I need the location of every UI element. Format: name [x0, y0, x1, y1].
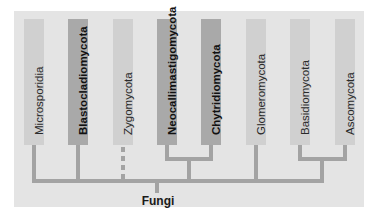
branch-zygomycota-dash [121, 156, 125, 161]
taxon-bar-neocallimastigomycota: Neocallimastigomycota [157, 19, 177, 145]
branch-blastocladiomycota [76, 145, 80, 183]
taxon-label: Microsporidia [33, 67, 45, 135]
taxon-bar-ascomycota: Ascomycota [335, 19, 355, 145]
taxon-bar-blastocladiomycota: Blastocladiomycota [68, 19, 88, 145]
taxon-label: Neocallimastigomycota [166, 7, 178, 135]
taxon-label: Zygomycota [122, 72, 134, 135]
root-label: Fungi [140, 194, 176, 208]
taxon-bar-zygomycota: Zygomycota [113, 19, 133, 145]
taxon-bar-glomeromycota: Glomeromycota [246, 19, 266, 145]
taxon-label: Blastocladiomycota [77, 26, 89, 135]
branch-zygomycota-dash [121, 147, 125, 152]
taxon-bar-microsporidia: Microsporidia [24, 19, 44, 145]
main-branch [32, 179, 324, 183]
branch-microsporidia [32, 145, 36, 183]
branch-glomeromycota [254, 145, 258, 183]
taxon-label: Glomeromycota [255, 54, 267, 135]
taxon-bar-chytridiomycota: Chytridiomycota [201, 19, 221, 145]
taxon-bar-basidiomycota: Basidiomycota [290, 19, 310, 145]
taxon-label: Chytridiomycota [210, 44, 222, 135]
taxon-label: Ascomycota [344, 72, 356, 135]
root-stem [155, 183, 159, 193]
branch-zygomycota-dash [121, 165, 125, 170]
taxon-label: Basidiomycota [299, 60, 311, 135]
